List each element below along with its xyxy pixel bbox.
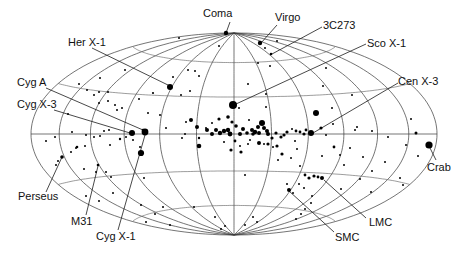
source-dot xyxy=(140,204,142,206)
source-dot xyxy=(220,228,222,230)
source-dot xyxy=(85,195,87,197)
source-dot xyxy=(98,200,100,202)
source-dot xyxy=(55,164,57,166)
source-dot xyxy=(230,120,233,123)
source-dot xyxy=(290,157,292,159)
source-dot xyxy=(181,137,183,139)
label-crab: Crab xyxy=(427,161,451,173)
source-dot xyxy=(299,165,301,167)
source-dot xyxy=(214,216,216,218)
source-dot xyxy=(234,124,238,128)
source-dot xyxy=(304,174,307,177)
source-dot xyxy=(371,130,373,132)
source-dot xyxy=(312,174,315,177)
source-dot xyxy=(299,131,302,134)
source-dot xyxy=(280,152,283,155)
source-dot xyxy=(193,206,195,208)
source-dot xyxy=(99,77,101,79)
source-dot xyxy=(265,93,267,95)
source-dot xyxy=(223,141,225,143)
label-her-x-1: Her X-1 xyxy=(68,36,106,48)
source-dot xyxy=(83,168,85,170)
source-dot xyxy=(370,191,372,193)
source-dot xyxy=(119,138,121,140)
source-dot xyxy=(252,216,254,218)
source-dot xyxy=(325,67,327,69)
source-dot xyxy=(138,150,144,156)
label-cen-x-3: Cen X-3 xyxy=(398,75,438,87)
source-dot xyxy=(197,144,202,149)
source-dot xyxy=(387,136,389,138)
label-lmc: LMC xyxy=(369,216,392,228)
source-dot xyxy=(332,123,334,125)
source-dot xyxy=(303,187,305,189)
label-coma: Coma xyxy=(203,7,233,19)
source-cen-x-3 xyxy=(308,130,314,136)
source-dot xyxy=(266,132,270,136)
source-dot xyxy=(263,143,265,145)
source-dot xyxy=(159,114,161,116)
leader-line-cen-x-3 xyxy=(313,83,398,133)
source-dot xyxy=(248,119,250,121)
source-dot xyxy=(224,225,226,227)
source-dot xyxy=(310,202,312,204)
source-dot xyxy=(75,147,77,149)
source-dot xyxy=(262,126,266,130)
source-dot xyxy=(339,154,341,156)
source-dot xyxy=(211,122,213,124)
source-dot xyxy=(259,120,265,126)
source-crab xyxy=(425,141,432,148)
source-dot xyxy=(145,221,147,223)
source-dot xyxy=(138,98,140,100)
source-dot xyxy=(410,118,412,120)
source-dot xyxy=(185,121,187,123)
source-coma xyxy=(224,31,228,35)
source-dot xyxy=(110,176,112,178)
source-dot xyxy=(218,45,220,47)
source-dot xyxy=(291,128,293,130)
source-dot xyxy=(274,131,277,134)
label-m31: M31 xyxy=(71,215,92,227)
source-dot xyxy=(198,75,200,77)
source-dot xyxy=(165,127,167,129)
source-dot xyxy=(228,132,233,137)
source-dot xyxy=(265,106,267,108)
source-dot xyxy=(313,110,319,116)
source-dot xyxy=(205,128,209,132)
source-dot xyxy=(99,135,101,137)
source-virgo xyxy=(258,41,262,45)
source-dot xyxy=(189,90,191,92)
source-dot xyxy=(405,144,407,146)
source-dot xyxy=(402,184,404,186)
source-dot xyxy=(162,206,164,208)
source-dot xyxy=(84,145,86,147)
source-dot xyxy=(311,195,313,197)
source-dot xyxy=(108,129,110,131)
source-dot xyxy=(415,132,418,135)
source-perseus xyxy=(60,155,64,159)
source-dot xyxy=(351,94,353,96)
label-3c273: 3C273 xyxy=(323,19,355,31)
source-dot xyxy=(307,176,310,179)
source-dot xyxy=(234,140,237,143)
source-dot xyxy=(45,140,47,142)
label-perseus: Perseus xyxy=(18,190,59,202)
source-dot xyxy=(304,208,306,210)
source-dot xyxy=(214,128,218,132)
source-dot xyxy=(302,132,305,135)
source-dot xyxy=(107,91,109,93)
source-dot xyxy=(272,146,274,148)
source-dot xyxy=(124,69,126,71)
label-cyg-a: Cyg A xyxy=(17,76,47,88)
source-dot xyxy=(143,177,145,179)
source-dot xyxy=(319,126,322,129)
source-dot xyxy=(384,161,386,163)
source-dot xyxy=(194,70,196,72)
source-dot xyxy=(257,62,259,64)
leader-line-her-x-1 xyxy=(92,48,170,86)
source-dot xyxy=(172,76,174,78)
source-dot xyxy=(229,148,232,151)
source-dot xyxy=(257,141,261,145)
source-lmc xyxy=(320,176,324,180)
source-dot xyxy=(57,160,59,162)
